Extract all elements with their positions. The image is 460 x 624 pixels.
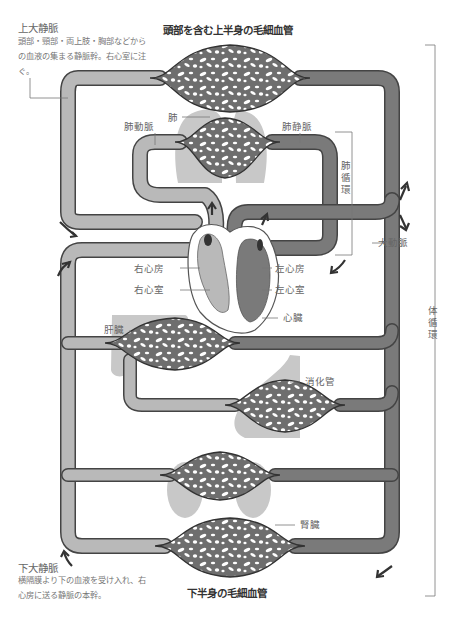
inferior-vena-cava-description: 横隔膜より下の血液を受け入れ、右心房に送る静脈の本幹。 xyxy=(18,573,153,603)
label-right-ventricle: 右心室 xyxy=(134,285,164,295)
label-pulmonary-circulation: 肺循環 xyxy=(340,160,351,196)
capillary-lower-body xyxy=(155,518,305,577)
superior-vena-cava-heading: 上大静脈 xyxy=(18,20,58,35)
label-kidney: 腎臓 xyxy=(300,520,320,530)
label-aorta: 大動脈 xyxy=(378,238,408,248)
label-heart: 心臓 xyxy=(283,313,303,323)
label-pulmonary-artery: 肺動脈 xyxy=(124,122,154,132)
label-liver: 肝臓 xyxy=(104,325,124,335)
heart xyxy=(188,225,278,334)
label-left-atrium: 左心房 xyxy=(275,264,305,274)
label-left-ventricle: 左心室 xyxy=(275,285,305,295)
superior-vena-cava-description: 頭部・頸部・両上肢・胸部などからの血液の集まる静脈幹。右心室に注ぐ。 xyxy=(18,34,153,79)
title-upper-capillaries: 頭部を含む上半身の毛細血管 xyxy=(163,22,293,37)
capillary-upper-body xyxy=(150,45,310,112)
label-systemic-circulation: 体循環 xyxy=(427,305,438,341)
label-pulmonary-vein: 肺静脈 xyxy=(282,122,312,132)
label-lung: 肺 xyxy=(168,113,178,123)
title-lower-capillaries: 下半身の毛細血管 xyxy=(187,585,267,600)
label-right-atrium: 右心房 xyxy=(134,264,164,274)
label-digestive-tract: 消化管 xyxy=(305,377,335,387)
circulatory-diagram xyxy=(0,0,460,624)
